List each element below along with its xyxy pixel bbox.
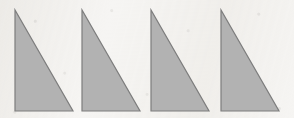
triangle-1-shape (15, 10, 73, 111)
triangle-4-shape (221, 10, 279, 111)
triangle-group (0, 0, 294, 118)
triangle-3-shape (151, 10, 209, 111)
figure-canvas (0, 0, 294, 118)
triangle-2-shape (82, 10, 140, 111)
